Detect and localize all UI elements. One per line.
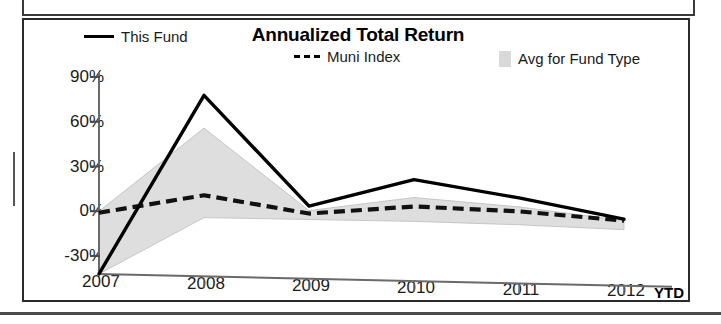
scanned-page: Annualized Total Return This Fund Muni I… bbox=[0, 0, 721, 324]
page-fragment-box-above bbox=[22, 0, 695, 16]
page-margin-rule bbox=[13, 152, 15, 206]
page-bottom-edge bbox=[0, 312, 721, 315]
avg-fund-type-band bbox=[99, 128, 624, 274]
plot-area bbox=[24, 20, 692, 304]
annualized-total-return-chart: Annualized Total Return This Fund Muni I… bbox=[22, 18, 690, 302]
